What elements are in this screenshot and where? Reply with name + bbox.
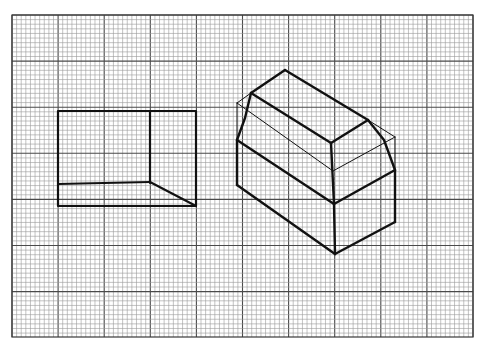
object-edge	[334, 204, 335, 254]
graph-paper-grid	[12, 15, 473, 337]
grid-paper-drawing	[0, 0, 485, 351]
